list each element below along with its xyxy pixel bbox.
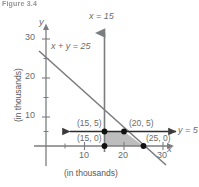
line-label-y-equals-5: y = 5 <box>178 126 198 135</box>
point-label-20-5: (20, 5) <box>129 119 154 128</box>
y-axis-unit-label: (in thousands) <box>13 68 23 122</box>
point-label-15-0: (15, 0) <box>77 134 102 143</box>
x-tick-label-20: 20 <box>118 151 128 160</box>
y-tick-label-30: 30 <box>25 33 35 42</box>
point-label-15-5: (15, 5) <box>77 119 102 128</box>
point-15-5 <box>102 129 108 135</box>
y-tick-label-10: 10 <box>25 111 35 120</box>
y-axis-name: y <box>39 17 44 27</box>
line-label-x-plus-y-equals-25: x + y = 25 <box>51 42 91 51</box>
x-tick-label-10: 10 <box>79 151 89 160</box>
x-tick-label-30: 30 <box>157 151 167 160</box>
point-15-0 <box>102 143 108 149</box>
x-axis-unit-label: (in thousands) <box>64 169 118 178</box>
figure-root: Figure 3.4 <box>0 0 199 187</box>
point-25-0 <box>141 143 147 149</box>
x-axis-name: x <box>167 144 172 154</box>
point-20-5 <box>121 129 127 135</box>
y-tick-label-20: 20 <box>25 72 35 81</box>
graph-canvas <box>0 0 199 187</box>
point-label-25-0: (25, 0) <box>146 134 171 143</box>
line-label-x-equals-15: x = 15 <box>89 12 114 21</box>
